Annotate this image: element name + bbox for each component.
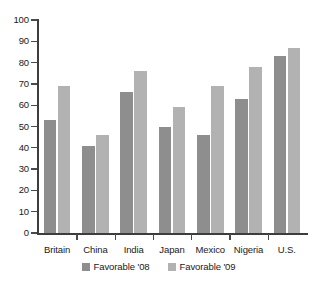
plot-area	[38, 20, 306, 233]
bar	[120, 92, 133, 233]
bar-chart: 0102030405060708090100 BritainChinaIndia…	[0, 0, 317, 288]
y-axis-tick	[31, 105, 37, 106]
bar	[235, 99, 248, 233]
y-axis-label: 100	[3, 15, 29, 25]
legend-label: Favorable '09	[180, 262, 236, 272]
bar	[159, 127, 172, 234]
y-axis-tick	[31, 62, 37, 63]
x-axis-tick	[115, 234, 116, 240]
y-axis-label: 50	[3, 122, 29, 132]
y-axis-label: 60	[3, 100, 29, 110]
y-axis-tick	[31, 168, 37, 169]
y-axis-label: 10	[3, 207, 29, 217]
y-axis-label: 70	[3, 79, 29, 89]
y-axis-label: 80	[3, 58, 29, 68]
bar	[274, 56, 287, 233]
y-axis-label: 0	[3, 228, 29, 238]
x-axis-tick	[153, 234, 154, 240]
y-axis-tick	[31, 232, 37, 233]
legend-item[interactable]: Favorable '08	[82, 262, 150, 272]
y-axis-label: 40	[3, 143, 29, 153]
x-axis-tick	[191, 234, 192, 240]
y-axis-tick	[31, 126, 37, 127]
bar	[249, 67, 262, 233]
x-axis-label: U.S.	[257, 245, 317, 255]
y-axis-tick	[31, 41, 37, 42]
y-axis-label: 90	[3, 36, 29, 46]
x-axis-tick	[76, 234, 77, 240]
x-axis-tick	[229, 234, 230, 240]
chart-legend: Favorable '08Favorable '09	[0, 262, 317, 272]
y-axis-tick	[31, 83, 37, 84]
legend-swatch-icon	[82, 263, 90, 271]
y-axis-tick	[31, 211, 37, 212]
y-axis-tick	[31, 147, 37, 148]
x-axis-tick	[268, 234, 269, 240]
bar	[44, 120, 57, 233]
legend-label: Favorable '08	[94, 262, 150, 272]
legend-item[interactable]: Favorable '09	[168, 262, 236, 272]
bar	[288, 48, 301, 233]
legend-swatch-icon	[168, 263, 176, 271]
y-axis-tick	[31, 190, 37, 191]
bar	[58, 86, 71, 233]
bar	[173, 107, 186, 233]
y-axis-label: 30	[3, 164, 29, 174]
y-axis-tick	[31, 19, 37, 20]
bar	[82, 146, 95, 233]
bar	[197, 135, 210, 233]
bar	[96, 135, 109, 233]
y-axis-label: 20	[3, 185, 29, 195]
bar	[211, 86, 224, 233]
bar	[134, 71, 147, 233]
